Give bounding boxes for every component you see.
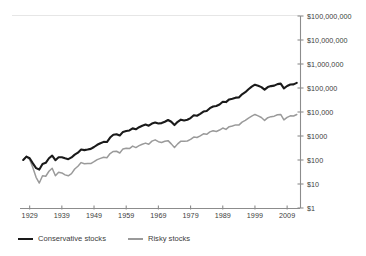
x-tick-label: 2009	[279, 211, 295, 220]
x-tick-label: 1929	[22, 211, 38, 220]
legend-swatch-icon	[128, 238, 143, 240]
legend-label: Conservative stocks	[38, 234, 106, 243]
legend-item[interactable]: Conservative stocks	[18, 234, 106, 243]
y-tick-label: $10,000,000	[307, 36, 348, 45]
x-tick-label: 1959	[118, 211, 134, 220]
y-tick-label: $100,000	[307, 84, 337, 93]
x-tick-label: 1989	[215, 211, 231, 220]
legend-swatch-icon	[18, 238, 33, 240]
series-line-conservative-stocks	[23, 83, 297, 170]
y-tick-label: $1,000,000	[307, 60, 343, 69]
y-tick-label: $1	[307, 204, 315, 213]
y-tick-label: $1000	[307, 132, 327, 141]
x-tick-label: 1969	[150, 211, 166, 220]
y-tick-label: $100	[307, 156, 323, 165]
legend-label: Risky stocks	[148, 234, 190, 243]
x-tick-label: 1979	[182, 211, 198, 220]
legend-item[interactable]: Risky stocks	[128, 234, 190, 243]
series-line-risky-stocks	[23, 114, 297, 183]
y-tick-label: $10	[307, 180, 319, 189]
x-tick-label: 1999	[247, 211, 263, 220]
x-tick-label: 1939	[54, 211, 70, 220]
y-tick-label: $10,000	[307, 108, 333, 117]
x-tick-label: 1949	[86, 211, 102, 220]
chart-legend: Conservative stocksRisky stocks	[18, 234, 190, 243]
y-tick-label: $100,000,000	[307, 12, 352, 21]
chart-container: $1$10$100$1000$10,000$100,000$1,000,000$…	[0, 0, 366, 256]
